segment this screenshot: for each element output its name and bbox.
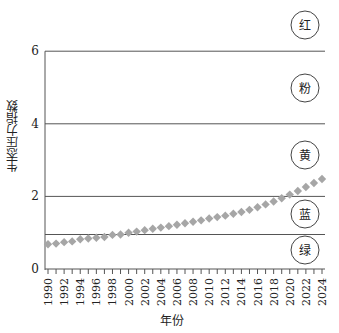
data-point-diamond	[165, 222, 173, 230]
x-tick-label: 1990	[42, 278, 55, 306]
data-point-diamond	[149, 225, 157, 233]
data-point-diamond	[60, 238, 68, 246]
y-tick-label: 6	[31, 44, 39, 58]
data-point-diamond	[245, 206, 253, 214]
zone-label: 蓝	[299, 208, 311, 222]
y-tick-label: 0	[31, 262, 39, 276]
x-tick-label: 2024	[316, 278, 329, 306]
chart-plot: 0246199019921994199619982000200220042006…	[0, 0, 339, 333]
x-tick-label: 2022	[300, 278, 313, 306]
x-tick-label: 2014	[235, 278, 248, 306]
y-axis-label: 生态压力指数	[6, 100, 24, 172]
x-tick-label: 2020	[284, 278, 297, 306]
y-tick-label: 2	[31, 189, 39, 203]
x-axis-label: 年份	[160, 311, 184, 328]
data-point-diamond	[221, 211, 229, 219]
data-point-diamond	[302, 183, 310, 191]
data-point-diamond	[189, 218, 197, 226]
data-point-diamond	[116, 230, 124, 238]
x-tick-label: 1992	[58, 278, 71, 306]
data-point-diamond	[205, 214, 213, 222]
zone-label: 绿	[299, 243, 311, 258]
data-point-diamond	[253, 203, 261, 211]
zone-label: 红	[299, 18, 311, 33]
x-tick-label: 2000	[123, 278, 136, 306]
data-point-diamond	[52, 239, 60, 247]
data-point-diamond	[294, 187, 302, 195]
data-point-diamond	[229, 210, 237, 218]
x-tick-label: 2012	[219, 278, 232, 306]
data-point-diamond	[213, 213, 221, 221]
data-point-diamond	[237, 208, 245, 216]
x-tick-label: 2010	[203, 278, 216, 306]
zone-label: 黄	[299, 149, 311, 163]
x-tick-label: 2002	[139, 278, 152, 306]
x-tick-label: 2004	[155, 278, 168, 306]
y-tick-label: 4	[31, 117, 39, 131]
data-point-diamond	[269, 197, 277, 205]
data-point-diamond	[310, 179, 318, 187]
x-tick-label: 2016	[252, 278, 265, 306]
data-point-diamond	[181, 219, 189, 227]
data-point-diamond	[318, 175, 326, 183]
data-point-diamond	[76, 235, 84, 243]
data-point-diamond	[157, 223, 165, 231]
x-tick-label: 2008	[187, 278, 200, 306]
x-tick-label: 2006	[171, 278, 184, 306]
data-point-diamond	[197, 216, 205, 224]
x-tick-label: 1998	[106, 278, 119, 306]
x-tick-label: 2018	[268, 278, 281, 306]
data-point-diamond	[108, 231, 116, 239]
zone-label: 粉	[299, 82, 311, 96]
data-point-diamond	[84, 234, 92, 242]
x-tick-label: 1996	[90, 278, 103, 306]
x-tick-label: 1994	[74, 278, 87, 306]
data-point-diamond	[261, 200, 269, 208]
data-point-diamond	[68, 237, 76, 245]
data-point-diamond	[286, 190, 294, 198]
data-point-diamond	[141, 226, 149, 234]
data-point-diamond	[278, 194, 286, 202]
data-point-diamond	[124, 229, 132, 237]
data-point-diamond	[173, 221, 181, 229]
